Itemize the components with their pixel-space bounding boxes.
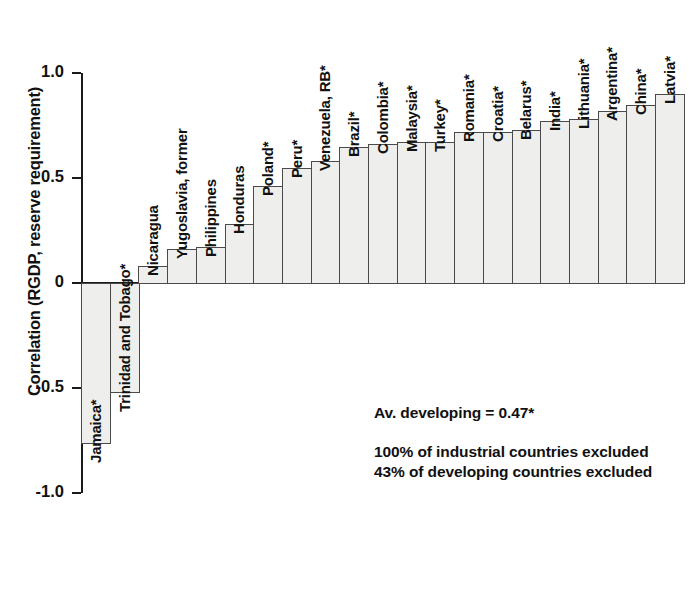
bar-category-label: China* — [633, 68, 648, 114]
bar-category-label: India* — [547, 92, 562, 132]
bar — [626, 105, 656, 285]
bar-category-label: Venezuela, RB* — [317, 66, 332, 172]
bar-chart: Correlation (RGDP, reserve requirement) … — [0, 0, 689, 590]
bar-category-label: Honduras — [231, 166, 246, 234]
bar — [512, 130, 542, 284]
y-tick-label: 0 — [0, 272, 64, 291]
bar-category-label: Lithuania* — [576, 59, 591, 130]
y-tick-mark — [72, 177, 81, 179]
bar-category-label: Nicaragua — [145, 205, 160, 276]
bar — [253, 186, 283, 284]
bar-category-label: Trinidad and Tobago* — [117, 264, 132, 412]
bar — [483, 132, 513, 284]
annotation-average: Av. developing = 0.47* — [374, 404, 534, 422]
bar — [282, 168, 312, 285]
bar-category-label: Latvia* — [662, 56, 677, 104]
y-tick-label: 1.0 — [0, 62, 64, 81]
bar — [311, 161, 341, 284]
bar-category-label: Turkey* — [432, 100, 447, 153]
bar — [425, 142, 455, 284]
y-tick-mark — [72, 492, 81, 494]
bar-category-label: Croatia* — [490, 86, 505, 142]
bar-category-label: Romania* — [461, 74, 476, 142]
bar — [598, 111, 628, 284]
bar-category-label: Malaysia* — [404, 86, 419, 153]
bar-category-label: Brazil* — [346, 111, 361, 156]
y-tick-mark — [72, 282, 81, 284]
bar-category-label: Argentina* — [604, 47, 619, 121]
bar — [540, 121, 570, 284]
bar-category-label: Philippines — [203, 179, 218, 257]
bar-category-label: Belarus* — [518, 80, 533, 139]
bar-category-label: Peru* — [289, 139, 304, 177]
y-tick-label: -0.5 — [0, 377, 64, 396]
y-tick-mark — [72, 72, 81, 74]
annotation-industrial-excluded: 100% of industrial countries excluded — [374, 443, 649, 461]
bar — [397, 142, 427, 284]
bar — [339, 147, 369, 285]
y-tick-label: -1.0 — [0, 482, 64, 501]
bar — [655, 94, 685, 284]
y-tick-mark — [72, 387, 81, 389]
bar — [368, 144, 398, 284]
bar-category-label: Colombia* — [375, 82, 390, 154]
bar — [454, 132, 484, 284]
bar-category-label: Jamaica* — [88, 399, 103, 462]
y-tick-label: 0.5 — [0, 167, 64, 186]
annotation-developing-excluded: 43% of developing countries excluded — [374, 463, 652, 481]
bar-category-label: Poland* — [260, 142, 275, 196]
bar — [569, 119, 599, 284]
bar-category-label: Yugoslavia, former — [174, 129, 189, 260]
